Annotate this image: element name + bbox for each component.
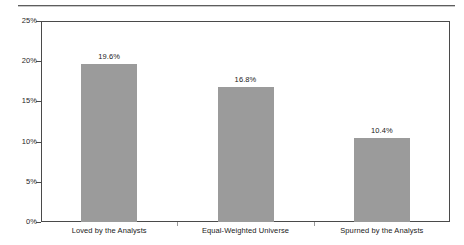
- bar-value-label: 19.6%: [69, 52, 149, 61]
- x-axis: Loved by the AnalystsEqual-Weighted Univ…: [41, 226, 450, 244]
- x-axis-tick-label: Loved by the Analysts: [39, 226, 179, 236]
- bar-chart: 0%5%10%15%20%25% 19.6%16.8%10.4% Loved b…: [0, 0, 464, 245]
- y-axis-tick-label: 10%: [3, 138, 37, 146]
- bar-value-label: 16.8%: [206, 75, 286, 84]
- bar: [218, 87, 274, 222]
- y-axis-tick-label: 15%: [3, 97, 37, 105]
- y-axis-tick-mark: [36, 222, 41, 223]
- x-axis-tick-label: Spurned by the Analysts: [312, 226, 452, 236]
- y-axis: 0%5%10%15%20%25%: [0, 0, 37, 245]
- y-axis-tick-label: 25%: [3, 17, 37, 25]
- bar: [354, 138, 410, 222]
- y-axis-tick-label: 5%: [3, 178, 37, 186]
- x-axis-tick-label: Equal-Weighted Universe: [176, 226, 316, 236]
- bars-layer: 19.6%16.8%10.4%: [41, 21, 450, 222]
- bar-value-label: 10.4%: [342, 126, 422, 135]
- y-axis-tick-label: 0%: [3, 218, 37, 226]
- bar: [81, 64, 137, 222]
- y-axis-tick-label: 20%: [3, 57, 37, 65]
